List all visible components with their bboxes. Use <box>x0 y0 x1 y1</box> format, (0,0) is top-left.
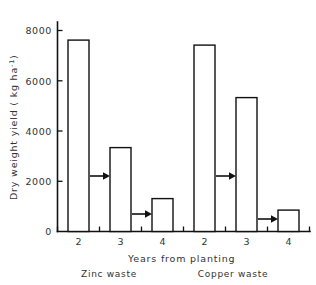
bar-zinc-year-4 <box>152 199 173 232</box>
bar-zinc-year-3 <box>110 148 131 232</box>
x-tick-label-copper-2: 2 <box>201 236 207 247</box>
group-label-copper-waste: Copper waste <box>198 269 268 279</box>
y-axis-title: Dry weight yield ( kg ha-1) <box>8 54 20 200</box>
bar-zinc-year-2 <box>68 40 89 231</box>
arrow-annotation-copper-year-3 <box>216 172 236 180</box>
x-axis-title: Years from planting <box>127 253 235 264</box>
bar-copper-year-3 <box>236 98 257 232</box>
bar-chart-svg: 8000 6000 4000 2000 0 <box>0 0 316 285</box>
y-axis-title-end: ) <box>8 54 19 59</box>
x-tick-label-zinc-2: 2 <box>75 236 81 247</box>
y-tick-label-4000: 4000 <box>25 126 52 137</box>
y-axis-title-superscript: -1 <box>8 59 16 67</box>
bar-copper-year-2 <box>194 45 215 231</box>
x-tick-label-copper-4: 4 <box>285 236 291 247</box>
arrow-annotation-zinc-year-3 <box>90 172 110 180</box>
x-tick-label-zinc-4: 4 <box>159 236 165 247</box>
group-label-zinc-waste: Zinc waste <box>81 269 137 279</box>
arrow-annotation-zinc-year-4 <box>132 210 152 218</box>
y-tick-label-6000: 6000 <box>25 76 52 87</box>
chart-figure: 8000 6000 4000 2000 0 <box>0 0 316 285</box>
y-axis-title-main: Dry weight yield ( kg ha <box>8 67 19 200</box>
x-tick-label-zinc-3: 3 <box>117 236 123 247</box>
arrow-annotation-copper-year-4 <box>258 215 278 223</box>
bar-copper-year-4 <box>278 210 299 231</box>
y-tick-label-2000: 2000 <box>25 176 52 187</box>
y-tick-label-8000: 8000 <box>25 25 52 36</box>
y-tick-label-0: 0 <box>45 226 52 237</box>
x-tick-label-copper-3: 3 <box>243 236 249 247</box>
